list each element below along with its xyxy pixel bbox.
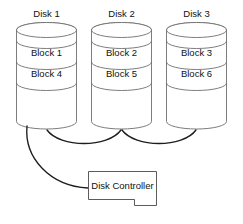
- diagram-canvas: Disk 1 Block 1 Block 4 Disk 2 Block 2 Bl…: [0, 0, 243, 224]
- disk-2-block-2-label: Block 5: [106, 68, 137, 79]
- link-disk1-controller: [27, 126, 88, 188]
- disk-3-block-2-label: Block 6: [181, 68, 212, 79]
- disk-2-title: Disk 2: [108, 8, 134, 19]
- disk-3-title: Disk 3: [183, 8, 209, 19]
- disk-3-block-1-label: Block 3: [181, 47, 212, 58]
- disk-3-group[interactable]: Disk 3 Block 3 Block 6: [167, 8, 227, 129]
- disk-1-top-cap: [17, 23, 77, 38]
- disk-1-title: Disk 1: [33, 8, 59, 19]
- disk-2-block-1-label: Block 2: [106, 47, 137, 58]
- disk-2-top-cap: [92, 23, 152, 38]
- link-disk2-disk3: [122, 130, 196, 144]
- disk-controller-label: Disk Controller: [91, 180, 153, 191]
- link-disk1-disk2: [47, 130, 121, 144]
- disk-1-block-1-label: Block 1: [31, 47, 62, 58]
- disk-array-diagram: Disk 1 Block 1 Block 4 Disk 2 Block 2 Bl…: [0, 0, 243, 224]
- disk-1-group[interactable]: Disk 1 Block 1 Block 4: [17, 8, 77, 129]
- disk-2-group[interactable]: Disk 2 Block 2 Block 5: [92, 8, 152, 129]
- disk-3-top-cap: [167, 23, 227, 38]
- disk-controller-group[interactable]: Disk Controller: [89, 172, 157, 206]
- disk-1-block-2-label: Block 4: [31, 68, 62, 79]
